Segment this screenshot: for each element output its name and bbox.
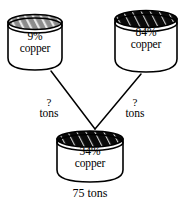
vat-right-label: 84% copper bbox=[113, 27, 179, 50]
flow-right-unit: tons bbox=[117, 108, 153, 120]
vat-left-top-surface bbox=[8, 15, 62, 30]
vat-mixture-percent: 34% bbox=[55, 146, 125, 158]
vat-mixture-label: 34% copper bbox=[55, 146, 125, 169]
vat-left-percent: 9% bbox=[7, 31, 63, 43]
vat-mixture-material: copper bbox=[55, 158, 125, 170]
vat-right-percent: 84% bbox=[113, 27, 179, 39]
flow-left-label: ? tons bbox=[31, 97, 67, 120]
flow-right-label: ? tons bbox=[117, 97, 153, 120]
vat-right-top-surface bbox=[115, 11, 177, 28]
vat-left-material: copper bbox=[7, 43, 63, 55]
vat-left-label: 9% copper bbox=[7, 31, 63, 54]
flow-left-unit: tons bbox=[31, 108, 67, 120]
vat-right-material: copper bbox=[113, 39, 179, 51]
mixture-total-label: 75 tons bbox=[50, 186, 130, 201]
diagram-canvas: 9% copper 84% copper 34% copper ? tons ?… bbox=[0, 0, 183, 207]
